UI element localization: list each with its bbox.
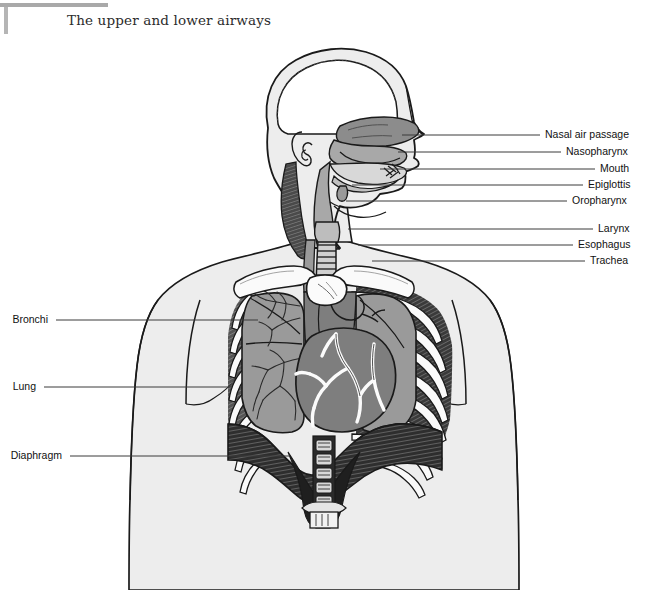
- label-bronchi: Bronchi: [0, 314, 48, 325]
- label-lung: Lung: [0, 381, 36, 392]
- label-larynx: Larynx: [598, 223, 630, 234]
- label-trachea: Trachea: [590, 255, 628, 266]
- label-diaphragm: Diaphragm: [0, 450, 62, 461]
- epiglottis: [337, 186, 348, 201]
- anatomy-illustration: [0, 0, 648, 590]
- label-epiglottis: Epiglottis: [588, 179, 631, 190]
- sternum: [307, 275, 347, 305]
- label-oropharynx: Oropharynx: [572, 195, 627, 206]
- label-nasopharynx: Nasopharynx: [566, 146, 628, 157]
- label-nasal-air-passage: Nasal air passage: [545, 129, 629, 140]
- label-mouth: Mouth: [600, 163, 629, 174]
- lung-right: [242, 290, 304, 433]
- larynx: [315, 222, 340, 242]
- label-esophagus: Esophagus: [578, 239, 631, 250]
- anatomy-figure: The upper and lower airways: [0, 0, 648, 590]
- heart: [296, 328, 396, 432]
